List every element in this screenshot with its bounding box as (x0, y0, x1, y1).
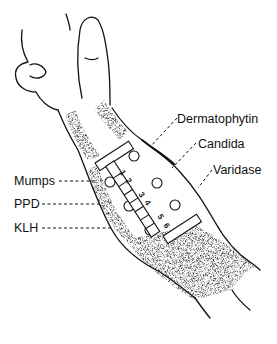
leader-dermatophytin (150, 118, 177, 147)
leader-candida (172, 143, 196, 168)
label-dermatophytin: Dermatophytin (177, 113, 258, 126)
leader-varidase (198, 170, 212, 188)
site-dermatophytin (129, 151, 139, 161)
label-varidase: Varidase (213, 164, 261, 177)
label-ppd: PPD (14, 198, 40, 211)
label-candida: Candida (198, 138, 245, 151)
label-mumps: Mumps (14, 175, 55, 188)
label-klh: KLH (14, 222, 38, 235)
forearm-diagram: 1 2 3 4 5 6 Mumps PPD KLH Dermatophytin … (0, 0, 277, 344)
leader-lines (42, 118, 212, 228)
site-varidase (170, 200, 180, 210)
site-candida (152, 178, 162, 188)
arm-shading (65, 100, 258, 300)
